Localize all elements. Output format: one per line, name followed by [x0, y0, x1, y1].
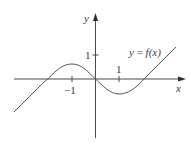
x-tick-label-neg1: −1	[64, 84, 76, 96]
curve-label: y = f(x)	[128, 46, 161, 59]
y-tick-label-1: 1	[85, 49, 91, 61]
graph-canvas: y x −1 1 1 y = f(x)	[0, 0, 191, 148]
y-axis-arrow-icon	[93, 13, 98, 21]
y-axis-label: y	[83, 12, 89, 24]
x-axis-label: x	[175, 82, 181, 94]
x-axis-arrow-icon	[178, 77, 186, 82]
x-tick-label-1: 1	[116, 63, 122, 75]
curve-label-eq: =	[134, 46, 146, 58]
curve-label-arg: (x)	[149, 46, 162, 59]
function-graph: y x −1 1 1 y = f(x)	[0, 0, 191, 148]
